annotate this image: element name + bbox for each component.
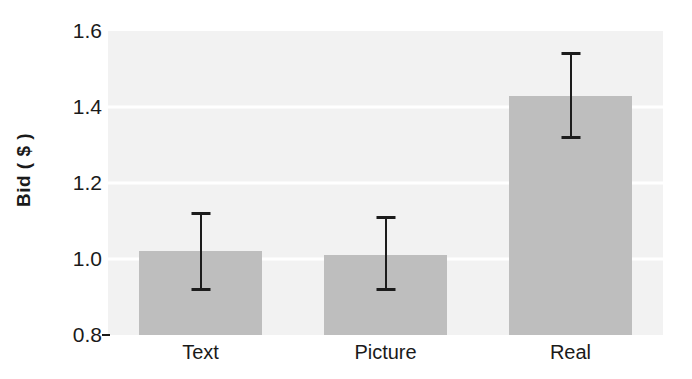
x-axis-tick-label: Picture <box>354 341 416 364</box>
error-bar-cap-upper <box>561 52 580 55</box>
error-bar-line <box>570 54 572 138</box>
error-bar-cap-upper <box>376 216 395 219</box>
error-bar-cap-lower <box>376 288 395 291</box>
y-axis-label: Bid ( $ ) <box>0 0 48 340</box>
y-axis-tick-label: 1.2 <box>48 171 102 195</box>
y-axis-tick-label: 0.8 <box>48 323 102 347</box>
x-axis-line <box>102 334 110 336</box>
x-axis-tick-label: Text <box>182 341 219 364</box>
error-bar-cap-upper <box>191 212 210 215</box>
y-axis-tick-label: 1.6 <box>48 19 102 43</box>
x-axis-tick-label: Real <box>550 341 591 364</box>
error-bar-line <box>385 217 387 289</box>
y-axis-tick-label: 1.0 <box>48 247 102 271</box>
error-bar-cap-lower <box>191 288 210 291</box>
plot-area <box>108 31 663 335</box>
y-axis-tick-label: 1.4 <box>48 95 102 119</box>
y-axis-label-text: Bid ( $ ) <box>13 133 35 207</box>
y-axis-tick-labels: 1.61.41.21.00.8 <box>46 0 102 379</box>
error-bar-line <box>200 213 202 289</box>
bar-chart-figure: Bid ( $ ) 1.61.41.21.00.8 TextPictureRea… <box>0 0 692 379</box>
x-axis-tick-labels: TextPictureReal <box>108 341 663 375</box>
error-bar-cap-lower <box>561 136 580 139</box>
